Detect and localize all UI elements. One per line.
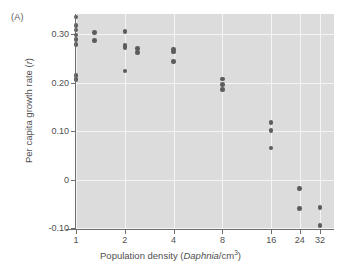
data-point bbox=[269, 120, 274, 125]
gridline-horizontal bbox=[76, 131, 334, 132]
x-axis-title: Population density (Daphnia/cm3) bbox=[0, 249, 341, 261]
x-tick-label: 32 bbox=[315, 235, 325, 245]
x-tick-mark bbox=[125, 230, 126, 234]
data-point bbox=[220, 77, 225, 82]
x-axis-line bbox=[66, 229, 334, 230]
x-tick-label: 16 bbox=[266, 235, 276, 245]
data-point bbox=[171, 59, 176, 64]
data-point bbox=[123, 45, 128, 50]
y-axis-title: Per capita growth rate (r) bbox=[23, 21, 34, 201]
data-point bbox=[92, 30, 97, 35]
data-point bbox=[297, 206, 302, 211]
data-point bbox=[123, 29, 128, 34]
y-tick-label: -0.10 bbox=[48, 223, 69, 233]
gridline-vertical bbox=[222, 14, 223, 229]
y-tick-mark bbox=[71, 131, 75, 132]
y-tick-mark bbox=[71, 228, 75, 229]
y-tick-label: 0 bbox=[64, 175, 69, 185]
y-axis-line bbox=[75, 14, 76, 230]
figure-panel-a: (A) 0.300.200.100-0.101248162432 Populat… bbox=[0, 0, 341, 269]
gridline-horizontal bbox=[76, 83, 334, 84]
x-tick-mark bbox=[174, 230, 175, 234]
data-point bbox=[123, 69, 128, 74]
data-point bbox=[269, 128, 274, 133]
data-point bbox=[297, 186, 302, 191]
x-tick-label: 1 bbox=[73, 235, 78, 245]
x-tick-mark bbox=[271, 230, 272, 234]
data-point bbox=[92, 38, 97, 43]
y-tick-mark bbox=[71, 83, 75, 84]
gridline-horizontal bbox=[76, 180, 334, 181]
x-tick-label: 4 bbox=[171, 235, 176, 245]
y-tick-label: 0.10 bbox=[51, 126, 69, 136]
gridline-vertical bbox=[300, 14, 301, 229]
x-tick-label: 2 bbox=[122, 235, 127, 245]
data-point bbox=[318, 223, 323, 228]
x-tick-mark bbox=[222, 230, 223, 234]
gridline-vertical bbox=[320, 14, 321, 229]
plot-area bbox=[76, 14, 334, 229]
data-point bbox=[135, 50, 140, 55]
x-tick-mark bbox=[320, 230, 321, 234]
x-tick-label: 8 bbox=[220, 235, 225, 245]
x-tick-mark bbox=[300, 230, 301, 234]
gridline-horizontal bbox=[76, 34, 334, 35]
y-tick-label: 0.20 bbox=[51, 78, 69, 88]
data-point bbox=[318, 205, 323, 210]
data-point bbox=[220, 87, 225, 92]
y-tick-mark bbox=[71, 34, 75, 35]
x-tick-mark bbox=[76, 230, 77, 234]
data-point bbox=[171, 50, 176, 55]
y-tick-label: 0.30 bbox=[51, 29, 69, 39]
y-tick-mark bbox=[71, 180, 75, 181]
x-tick-label: 24 bbox=[295, 235, 305, 245]
data-point bbox=[269, 146, 274, 151]
